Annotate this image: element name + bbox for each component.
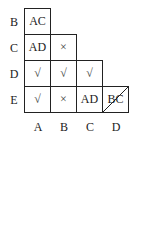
col-label-a: A bbox=[25, 120, 51, 134]
col-label-d: D bbox=[103, 120, 129, 134]
col-label-c: C bbox=[77, 120, 103, 134]
col-label-b: B bbox=[51, 120, 77, 134]
